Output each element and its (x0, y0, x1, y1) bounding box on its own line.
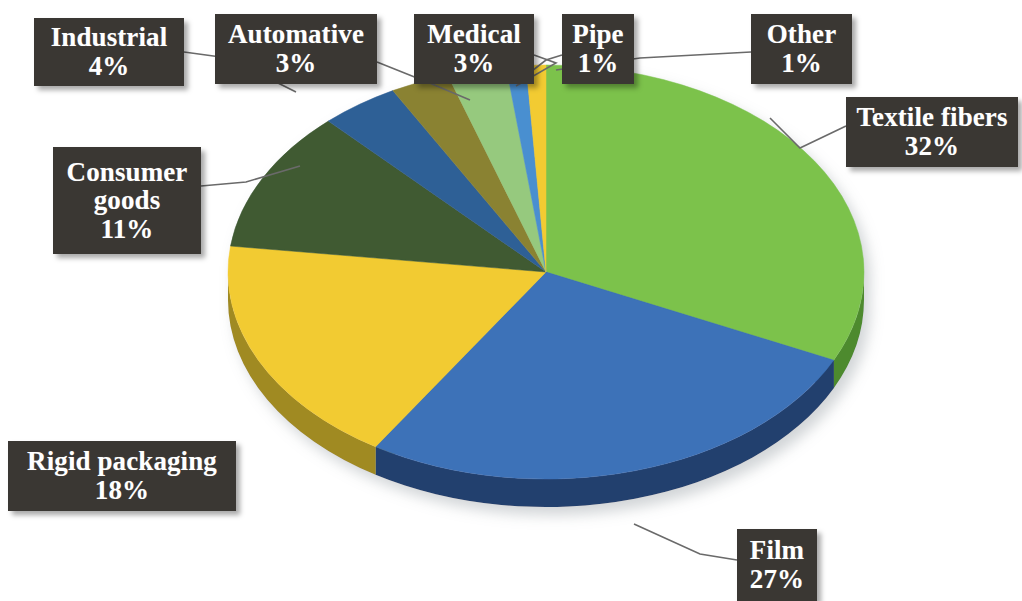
callout-label-industrial-name: Industrial (51, 23, 168, 52)
pie-slices (228, 65, 864, 479)
callout-label-textile-fibers-value: 32% (905, 132, 959, 161)
callout-label-textile-fibers: Textile fibers 32% (846, 97, 1018, 167)
callout-label-other-value: 1% (781, 49, 822, 78)
callout-label-consumer-goods-name: Consumer goods (53, 158, 201, 215)
callout-label-automotive-value: 3% (276, 49, 317, 78)
callout-label-rigid-packaging: Rigid packaging 18% (8, 441, 236, 511)
callout-label-other-name: Other (767, 20, 836, 49)
callout-label-medical: Medical 3% (414, 14, 534, 84)
callout-label-consumer-goods: Consumer goods 11% (53, 147, 201, 254)
callout-label-other: Other 1% (751, 14, 852, 84)
callout-label-automotive-name: Automative (228, 20, 364, 49)
callout-label-industrial: Industrial 4% (34, 18, 184, 86)
callout-label-consumer-goods-value: 11% (101, 215, 154, 244)
callout-label-textile-fibers-name: Textile fibers (856, 103, 1007, 132)
callout-label-film: Film 27% (737, 529, 817, 601)
callout-label-film-value: 27% (750, 565, 804, 594)
callout-label-automotive: Automative 3% (215, 14, 377, 84)
callout-label-pipe-value: 1% (578, 49, 619, 78)
callout-label-rigid-packaging-value: 18% (95, 476, 149, 505)
callout-label-pipe: Pipe 1% (562, 14, 634, 84)
callout-label-rigid-packaging-name: Rigid packaging (27, 447, 217, 476)
callout-label-pipe-name: Pipe (572, 20, 623, 49)
callout-label-industrial-value: 4% (89, 52, 130, 81)
callout-label-medical-name: Medical (427, 20, 521, 49)
callout-label-medical-value: 3% (454, 49, 495, 78)
callout-label-film-name: Film (750, 536, 804, 565)
